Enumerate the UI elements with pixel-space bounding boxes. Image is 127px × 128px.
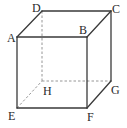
- edge-BC: [87, 11, 111, 37]
- vertex-label-E: E: [8, 109, 15, 123]
- vertex-label-C: C: [112, 2, 120, 16]
- vertex-label-G: G: [111, 83, 120, 97]
- vertex-label-A: A: [7, 31, 16, 45]
- vertex-label-B: B: [79, 23, 87, 37]
- vertex-label-D: D: [32, 1, 41, 15]
- vertex-label-F: F: [87, 110, 94, 124]
- edge-EH: [17, 81, 42, 108]
- cube-diagram: A D B C H G E F: [0, 0, 127, 128]
- edge-FG: [87, 81, 111, 108]
- vertex-label-H: H: [43, 84, 52, 98]
